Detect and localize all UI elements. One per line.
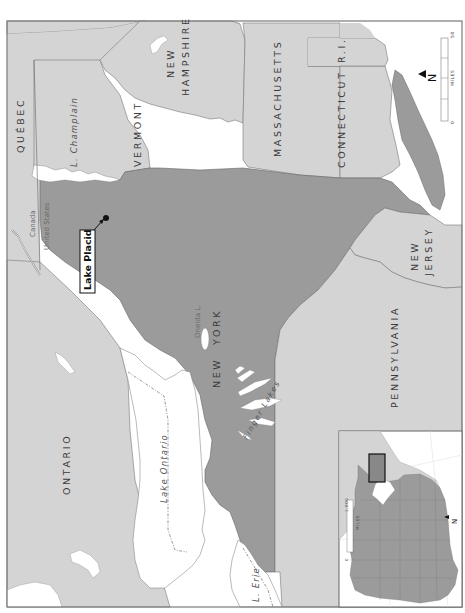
label-oneida-lake: Oneida L.	[194, 305, 202, 338]
label-connecticut: CONNECTICUT	[336, 70, 347, 168]
scale-bar-outline	[441, 38, 448, 121]
label-quebec: QUÉBEC	[15, 98, 26, 153]
label-canada: Canada	[29, 210, 37, 237]
map-canvas: QUÉBEC ONTARIO VERMONT NEW HAMPSHIRE MAS…	[0, 0, 465, 613]
label-new-york-2: YORK	[211, 309, 222, 346]
label-lake-ontario: Lake Ontario	[159, 434, 169, 503]
city-dot	[103, 215, 109, 221]
inset-north-label: N	[451, 519, 459, 524]
inset-highlight-box	[369, 454, 385, 482]
scale-start: 0	[450, 121, 455, 124]
label-vermont: VERMONT	[132, 101, 143, 167]
map-figure: QUÉBEC ONTARIO VERMONT NEW HAMPSHIRE MAS…	[0, 0, 465, 613]
label-massachusetts: MASSACHUSETTS	[272, 40, 283, 157]
label-lake-champlain: L. Champlain	[69, 97, 79, 167]
label-new-hampshire-2: HAMPSHIRE	[180, 16, 191, 96]
label-ontario: ONTARIO	[61, 434, 72, 495]
label-new-hampshire-1: NEW	[165, 48, 176, 78]
label-pennsylvania: PENNSYLVANIA	[389, 306, 400, 408]
label-new-york-1: NEW	[211, 358, 222, 388]
scale-end: 50	[450, 31, 455, 38]
city-label: Lake Placid	[82, 229, 93, 290]
north-arrow-label: N	[426, 74, 439, 82]
label-rhode-island: R.I.	[336, 37, 347, 63]
label-new-jersey-1: NEW	[409, 241, 420, 271]
scale-unit: MILES	[450, 70, 455, 86]
label-new-jersey-2: JERSEY	[423, 227, 434, 277]
inset-scale-end: 1,000	[344, 498, 349, 512]
inset-locator-map: 0 1,000 MILES N	[339, 431, 462, 607]
inset-scale-start: 0	[344, 558, 349, 561]
label-lake-erie: L. Erie	[251, 567, 261, 602]
label-united-states: United States	[43, 202, 51, 250]
oneida-lake	[201, 328, 209, 350]
inset-scale-unit: MILES	[355, 515, 360, 530]
